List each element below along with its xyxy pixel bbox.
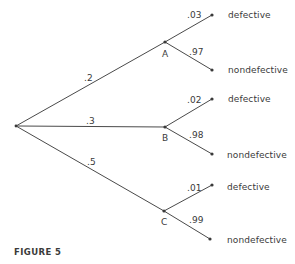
leaf-c-nondefective-dot [208,237,211,240]
prob-c-defective: .01 [187,183,202,193]
root-node-dot [15,125,18,128]
node-a-dot [163,40,166,43]
branch-root-c [16,126,164,211]
node-c-label: C [161,217,167,227]
figure-caption: FIGURE 5 [14,247,61,257]
prob-c: .5 [87,157,96,167]
outcome-b-nondefective: nondefective [227,150,287,160]
prob-a-nondefective: .97 [189,47,204,57]
node-b-dot [163,125,166,128]
prob-b-nondefective: .98 [189,130,204,140]
leaf-b-nondefective-dot [210,152,213,155]
prob-b-defective: .02 [187,95,202,105]
outcome-c-defective: defective [227,182,270,192]
outcome-b-defective: defective [228,94,271,104]
branch-root-b [16,126,165,127]
node-b-label: B [162,133,168,143]
outcome-c-nondefective: nondefective [227,235,287,245]
outcome-a-nondefective: nondefective [228,65,288,75]
prob-a: .2 [84,73,93,83]
leaf-a-nondefective-dot [210,68,213,71]
prob-c-nondefective: .99 [189,215,204,225]
prob-a-defective: .03 [187,10,202,20]
branch-root-a [16,42,165,126]
leaf-b-defective-dot [210,97,213,100]
tree-diagram [0,0,295,264]
node-c-dot [162,209,165,212]
outcome-a-defective: defective [228,10,271,20]
prob-b: .3 [86,116,95,126]
node-a-label: A [162,49,168,59]
leaf-a-defective-dot [210,13,213,16]
leaf-c-defective-dot [210,183,213,186]
